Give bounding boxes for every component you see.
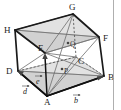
vector-label-b-group: b — [73, 94, 81, 105]
vertex-label-g: G — [69, 2, 76, 12]
parallelepiped-svg: A B C D E F G H P Q b d — [0, 0, 121, 110]
vertex-label-h: H — [4, 25, 11, 35]
vector-b-head — [97, 76, 104, 80]
point-p-dot — [61, 68, 64, 71]
vertex-label-a: A — [44, 97, 51, 107]
vertex-label-d: D — [6, 66, 13, 76]
vector-b-overbar-head — [78, 94, 80, 96]
vector-label-d-group: d — [22, 85, 30, 96]
vector-d-overbar-head — [27, 85, 29, 87]
point-label-q: Q — [70, 40, 76, 49]
vertex-label-e: E — [38, 43, 44, 53]
vector-label-e: e — [36, 77, 40, 86]
geometry-figure: A B C D E F G H P Q b d — [0, 0, 121, 110]
point-label-p: P — [64, 67, 68, 76]
vector-label-b: b — [74, 96, 78, 105]
vector-label-d: d — [23, 87, 28, 96]
edge-d-h — [15, 30, 18, 71]
point-q-dot — [67, 42, 70, 45]
vertex-label-f: F — [103, 33, 108, 43]
vertex-label-c: C — [78, 56, 84, 66]
